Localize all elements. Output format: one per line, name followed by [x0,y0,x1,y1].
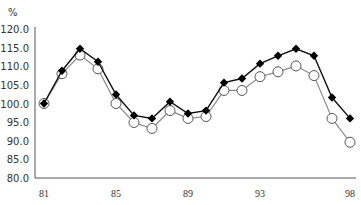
series-hollow-circle-line [44,55,350,142]
y-tick-label: 80.0 [7,173,29,184]
hollow-circle-marker [327,113,337,123]
hollow-circle-marker [147,123,157,133]
y-tick-label: 85.0 [7,154,29,165]
hollow-circle-marker [237,85,247,95]
x-tick-label: 85 [111,188,121,199]
y-tick-label: 90.0 [7,136,29,147]
y-tick-label: 105.0 [0,80,29,91]
x-tick-label: 81 [39,188,49,199]
series-filled-diamond-line [44,49,350,119]
hollow-circle-marker [165,106,175,116]
x-tick-label: 89 [183,188,193,199]
y-tick-label: 100.0 [0,99,29,110]
y-tick-label: 120.0 [0,24,29,35]
x-tick-label: 98 [345,188,355,199]
y-axis-unit-label: % [8,7,18,18]
hollow-circle-marker [111,99,121,109]
filled-diamond-marker [310,52,318,60]
hollow-circle-marker [255,72,265,82]
filled-diamond-marker [274,52,282,60]
hollow-circle-marker [291,61,301,71]
line-chart: %120.0115.0110.0105.0100.095.090.085.080… [0,0,361,205]
filled-diamond-marker [220,78,228,86]
y-tick-label: 110.0 [0,61,29,72]
filled-diamond-marker [292,45,300,53]
x-tick-label: 93 [255,188,265,199]
hollow-circle-marker [309,71,319,81]
y-tick-label: 95.0 [7,117,29,128]
hollow-circle-marker [345,137,355,147]
hollow-circle-marker [273,67,283,77]
y-tick-label: 115.0 [0,43,29,54]
